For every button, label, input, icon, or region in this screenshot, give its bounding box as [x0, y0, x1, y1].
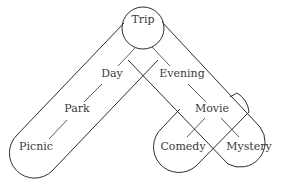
edge-movie-comedy — [187, 118, 205, 137]
edge-movie-mystery — [221, 118, 239, 137]
node-comedy: Comedy — [160, 140, 206, 153]
tree-diagram: Trip Day Evening Park Movie Picnic Comed… — [0, 0, 295, 194]
edge-day-park — [84, 84, 102, 102]
node-evening: Evening — [159, 67, 204, 80]
edge-trip-day — [118, 47, 136, 66]
edge-park-picnic — [49, 120, 67, 139]
edge-evening-movie — [188, 84, 206, 102]
capsule-left-trip-to-picnic — [9, 23, 158, 178]
node-mystery: Mystery — [226, 140, 272, 153]
node-movie: Movie — [195, 102, 229, 115]
node-park: Park — [64, 102, 90, 115]
node-picnic: Picnic — [19, 140, 53, 153]
node-trip: Trip — [131, 13, 154, 26]
node-day: Day — [101, 67, 123, 80]
